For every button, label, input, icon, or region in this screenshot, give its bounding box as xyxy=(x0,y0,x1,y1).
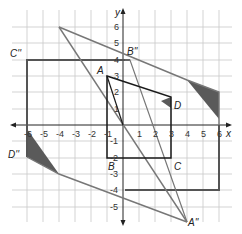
svg-text:3: 3 xyxy=(169,129,174,139)
x-arrow-icon xyxy=(226,123,232,128)
coordinate-plane: -6 -5 -4 -3 -2 -1 1 2 3 4 5 6 6 5 4 3 2 … xyxy=(0,0,242,234)
svg-text:-2: -2 xyxy=(88,129,96,139)
svg-text:4: 4 xyxy=(114,55,119,65)
label-b-double-prime: B'' xyxy=(127,46,139,57)
svg-text:-5: -5 xyxy=(40,129,48,139)
svg-text:-4: -4 xyxy=(56,129,64,139)
label-c-double-prime: C'' xyxy=(10,48,22,59)
svg-text:3: 3 xyxy=(114,71,119,81)
svg-text:-6: -6 xyxy=(24,129,32,139)
label-a: A xyxy=(96,65,104,76)
svg-text:-4: -4 xyxy=(110,185,118,195)
shaded-triangle-d xyxy=(161,97,171,108)
x-axis-label: x xyxy=(225,128,232,139)
label-b: B xyxy=(108,161,115,172)
svg-text:6: 6 xyxy=(217,129,222,139)
svg-text:-1: -1 xyxy=(110,136,118,146)
y-axis-label: y xyxy=(114,7,121,18)
label-d-double-prime: D'' xyxy=(8,149,20,160)
svg-text:-5: -5 xyxy=(110,202,118,212)
label-a-double-prime: A'' xyxy=(187,217,200,228)
svg-text:-3: -3 xyxy=(72,129,80,139)
svg-text:1: 1 xyxy=(137,129,142,139)
svg-text:1: 1 xyxy=(114,104,119,114)
svg-text:4: 4 xyxy=(185,129,190,139)
svg-text:2: 2 xyxy=(153,129,158,139)
label-d: D xyxy=(174,100,181,111)
svg-text:2: 2 xyxy=(114,87,119,97)
svg-text:5: 5 xyxy=(201,129,206,139)
label-c: C xyxy=(174,161,182,172)
svg-text:5: 5 xyxy=(114,38,119,48)
svg-text:6: 6 xyxy=(114,22,119,32)
y-arrow-icon xyxy=(121,8,126,14)
